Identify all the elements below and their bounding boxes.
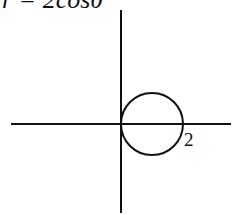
polar-diagram: r = 2cosθ 2 (0, 0, 239, 215)
intercept-label: 2 (184, 129, 194, 150)
equation-title: r = 2cosθ (2, 0, 103, 14)
